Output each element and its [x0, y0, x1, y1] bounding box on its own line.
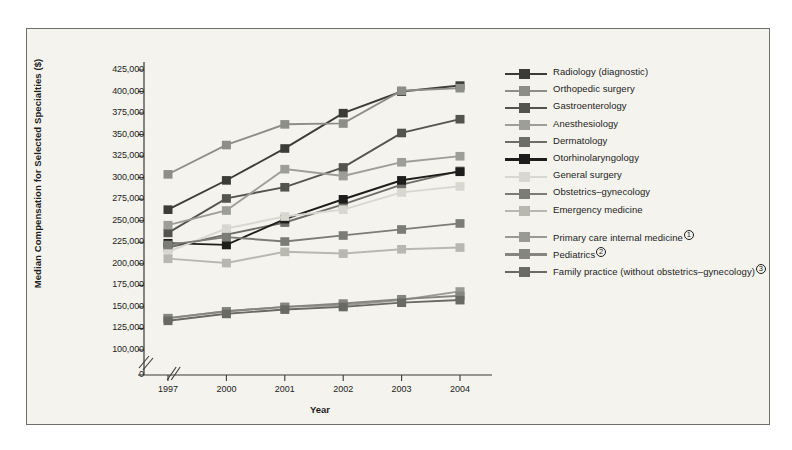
x-axis-label: Year: [155, 404, 485, 415]
y-tick-label: 0: [139, 369, 144, 379]
y-tick-label: 400,000: [112, 86, 144, 96]
legend-marker: [519, 249, 530, 259]
legend-item[interactable]: Pediatrics2: [505, 247, 767, 261]
legend-item[interactable]: Emergency medicine: [505, 204, 767, 218]
legend-item[interactable]: Dermatology: [505, 135, 767, 149]
legend-item[interactable]: Orthopedic surgery: [505, 83, 767, 97]
data-point: [222, 233, 231, 242]
legend-label: Radiology (diagnostic): [553, 66, 648, 78]
legend-item[interactable]: Gastroenterology: [505, 100, 767, 114]
data-point: [164, 317, 173, 326]
data-point: [339, 109, 348, 118]
legend-marker: [519, 232, 530, 242]
legend-swatch: [505, 231, 547, 244]
legend-item[interactable]: General surgery: [505, 169, 767, 183]
x-tick-label: 2004: [435, 384, 485, 394]
legend-footnote-marker: 1: [684, 230, 694, 240]
y-tick-label: 425,000: [112, 64, 144, 74]
x-tick-label: 1997: [143, 384, 193, 394]
y-tick-label: 375,000: [112, 107, 144, 117]
y-tick-label: 100,000: [112, 344, 144, 354]
y-tick-label: 300,000: [112, 172, 144, 182]
data-point: [456, 152, 465, 161]
x-tick-label: 2000: [201, 384, 251, 394]
data-point: [456, 296, 465, 305]
legend-item[interactable]: Obstetrics–gynecology: [505, 186, 767, 200]
data-point: [222, 176, 231, 185]
data-point: [280, 212, 289, 221]
data-point: [280, 183, 289, 192]
data-point: [280, 144, 289, 153]
legend-marker: [519, 103, 530, 113]
data-point: [222, 241, 231, 250]
y-axis-label: Median Compensation for Selected Special…: [32, 59, 43, 289]
legend-item[interactable]: Radiology (diagnostic): [505, 66, 767, 80]
data-point: [280, 237, 289, 246]
data-point: [280, 305, 289, 314]
data-point: [222, 310, 231, 319]
data-point: [339, 172, 348, 181]
legend-item[interactable]: Family practice (without obstetrics–gyne…: [505, 264, 767, 278]
data-point: [456, 243, 465, 252]
data-point: [397, 176, 406, 185]
data-point: [222, 141, 231, 150]
y-tick-label: 150,000: [112, 301, 144, 311]
legend-swatch: [505, 170, 547, 183]
series-line: [168, 247, 460, 263]
x-tick-label: 2003: [377, 384, 427, 394]
data-point: [164, 170, 173, 179]
legend-label: Otorhinolaryngology: [553, 152, 639, 164]
data-point: [397, 188, 406, 197]
data-point: [456, 182, 465, 191]
y-tick-label: 275,000: [112, 193, 144, 203]
x-tick-label: 2001: [260, 384, 310, 394]
legend-item[interactable]: Otorhinolaryngology: [505, 152, 767, 166]
legend-swatch: [505, 84, 547, 97]
legend-swatch: [505, 153, 547, 166]
legend-marker: [519, 69, 530, 79]
y-tick-label: 325,000: [112, 150, 144, 160]
y-tick-label: 225,000: [112, 236, 144, 246]
data-point: [164, 221, 173, 230]
data-point: [397, 129, 406, 138]
legend-marker: [519, 172, 530, 182]
y-tick-label: 350,000: [112, 129, 144, 139]
legend-item[interactable]: Anesthesiology: [505, 118, 767, 132]
chart-legend: Radiology (diagnostic)Orthopedic surgery…: [505, 66, 767, 281]
legend-label: Obstetrics–gynecology: [553, 186, 650, 198]
data-point: [339, 163, 348, 172]
data-point: [339, 195, 348, 204]
series-line: [168, 119, 460, 233]
y-axis-ticks: 0100,000125,000150,000175,000200,000225,…: [48, 0, 144, 450]
y-tick-label: 125,000: [112, 322, 144, 332]
x-axis-break-icon: [167, 367, 180, 380]
data-point: [397, 86, 406, 95]
legend-swatch: [505, 119, 547, 132]
legend-marker: [519, 267, 530, 277]
legend-label: General surgery: [553, 169, 622, 181]
data-point: [339, 231, 348, 240]
series-emergency-medicine: [164, 243, 465, 267]
data-point: [339, 119, 348, 128]
legend-item[interactable]: Primary care internal medicine1: [505, 230, 767, 244]
legend-marker: [519, 206, 530, 216]
legend-label: Orthopedic surgery: [553, 83, 635, 95]
legend-marker: [519, 154, 530, 164]
data-point: [222, 259, 231, 268]
x-tick-label: 2002: [318, 384, 368, 394]
data-point: [456, 115, 465, 124]
data-point: [397, 225, 406, 234]
data-point: [222, 224, 231, 233]
y-tick-label: 250,000: [112, 215, 144, 225]
data-point: [456, 84, 465, 93]
legend-swatch: [505, 205, 547, 218]
series-line: [168, 300, 460, 321]
data-point: [339, 205, 348, 214]
legend-marker: [519, 137, 530, 147]
data-point: [397, 245, 406, 254]
legend-label: Pediatrics2: [553, 247, 606, 261]
data-point: [280, 165, 289, 174]
data-point: [280, 120, 289, 129]
legend-label: Primary care internal medicine1: [553, 230, 694, 244]
legend-footnote-marker: 2: [596, 247, 606, 257]
